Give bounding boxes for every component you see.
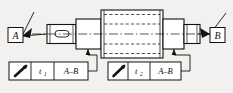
engineering-drawing: A B [0, 0, 233, 93]
feature-control-frame-left[interactable]: t 1 A–B [9, 62, 88, 80]
fcf-left-leader [88, 49, 97, 71]
datum-label-a: A [11, 30, 19, 41]
drawing-canvas: A B [0, 0, 233, 93]
datum-box-b[interactable]: B [210, 28, 225, 43]
fcf-right-arrowhead [172, 49, 177, 55]
datum-a-leader [22, 12, 47, 36]
datum-box-a[interactable]: A [8, 28, 23, 43]
tolerance-subscript-left: 1 [44, 71, 47, 77]
datum-label-b: B [214, 30, 220, 41]
feature-control-frame-right[interactable]: t 2 A–B [108, 62, 181, 80]
fcf-left-arrowhead [86, 49, 91, 55]
datum-reference-left: A–B [63, 66, 79, 76]
datum-reference-right: A–B [157, 66, 173, 76]
tolerance-subscript-right: 2 [140, 71, 143, 77]
datum-b-arrowhead [200, 28, 210, 38]
